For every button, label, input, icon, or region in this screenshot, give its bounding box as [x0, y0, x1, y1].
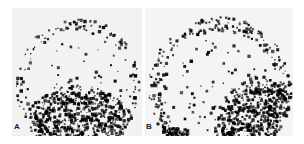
scan-image-b [145, 8, 293, 136]
panel-label-b: B [146, 122, 152, 131]
panel-label-a: A [14, 122, 20, 131]
panel-b-scan-image [145, 8, 293, 136]
scan-image-a [12, 8, 142, 136]
panel-a-scan-image [12, 8, 142, 136]
